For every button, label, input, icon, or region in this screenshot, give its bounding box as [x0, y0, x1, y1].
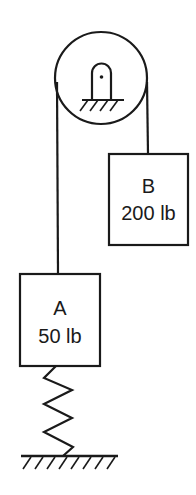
block-b-name: B [142, 175, 155, 197]
pulley [55, 32, 147, 124]
block-b-weight: 200 lb [121, 202, 176, 224]
ground [21, 456, 118, 469]
spring-icon [44, 366, 73, 456]
rope-right [147, 82, 148, 154]
block-a-box [20, 274, 100, 366]
block-b: B 200 lb [109, 154, 188, 245]
block-a-weight: 50 lb [38, 325, 81, 347]
ground-hatch-icon [23, 457, 115, 469]
support-hatch-icon [80, 100, 118, 111]
pin-support-icon [92, 64, 111, 100]
pulley-diagram: B 200 lb A 50 lb [0, 0, 196, 495]
rope-left [57, 82, 58, 274]
block-a-name: A [53, 297, 67, 319]
block-a: A 50 lb [20, 274, 100, 366]
pin-icon [100, 75, 104, 79]
block-b-box [109, 154, 188, 245]
